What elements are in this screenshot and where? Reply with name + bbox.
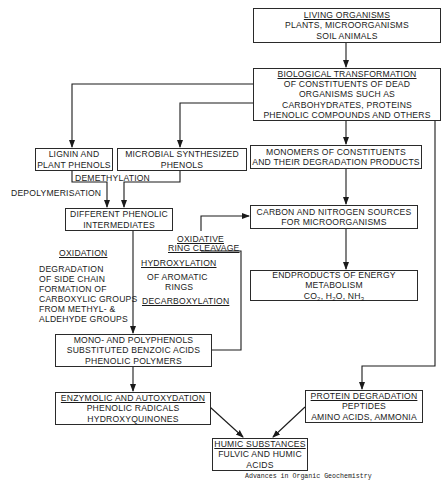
node-title: BIOLOGICAL TRANSFORMATION: [277, 69, 416, 79]
label-oxidation-line: FROM METHYL- &: [39, 304, 115, 314]
label-hydroxylation: HYDROXYLATION: [141, 258, 217, 268]
node-title: PROTEIN DEGRADATION: [311, 391, 418, 401]
node-line: MONO- AND POLYPHENOLS: [74, 335, 194, 345]
label-hydroxylation-line: OF AROMATIC: [147, 272, 208, 282]
node-line: LIGNIN AND: [49, 149, 100, 159]
chemical-formula: CO2, H2O, NH3: [304, 291, 364, 301]
node-line: CARBON AND NITROGEN SOURCES: [257, 207, 412, 217]
node-line: ACIDS: [246, 460, 273, 470]
node-line: ENDPRODUCTS OF ENERGY: [272, 270, 396, 280]
node-line: FOR MICROORGANISMS: [281, 217, 386, 227]
node-enzymolic-autoxydation: ENZYMOLIC AND AUTOXYDATION PHENOLIC RADI…: [55, 392, 211, 425]
node-lignin-plant-phenols: LIGNIN AND PLANT PHENOLS: [35, 148, 113, 171]
label-depolymerisation: DEPOLYMERISATION: [11, 188, 101, 198]
label-oxidation: OXIDATION: [59, 248, 107, 258]
label-oxidation-line: FORMATION OF: [39, 284, 107, 294]
label-oxidation-line: DEGRADATION: [39, 264, 104, 274]
node-protein-degradation: PROTEIN DEGRADATION PEPTIDES AMINO ACIDS…: [305, 390, 423, 423]
node-title: ENZYMOLIC AND AUTOXYDATION: [61, 393, 205, 403]
label-hydroxylation-line: RINGS: [165, 282, 193, 292]
node-line: MICROBIAL SYNTHESIZED: [125, 149, 239, 159]
node-line: OF CONSTITUENTS OF DEAD: [284, 79, 410, 89]
node-phenolic-intermediates: DIFFERENT PHENOLIC INTERMEDIATES: [65, 208, 173, 231]
node-biological-transformation: BIOLOGICAL TRANSFORMATION OF CONSTITUENT…: [253, 68, 441, 121]
node-title: LIVING ORGANISMS: [304, 10, 390, 20]
label-oxidation-line: CARBOXYLIC GROUPS: [39, 294, 137, 304]
node-line: PLANT PHENOLS: [37, 160, 111, 170]
node-line: PHENOLIC RADICALS: [87, 403, 180, 413]
node-line: PEPTIDES: [342, 401, 386, 411]
node-line: CARBOHYDRATES, PROTEINS: [282, 100, 412, 110]
label-decarboxylation: DECARBOXYLATION: [142, 296, 229, 306]
node-line: PLANTS, MICROORGANISMS: [285, 20, 409, 30]
source-credit: Advances in Organic Geochemistry: [245, 473, 372, 480]
node-line: FULVIC AND HUMIC: [218, 449, 302, 459]
node-line: MONOMERS OF CONSTITUENTS: [266, 147, 406, 157]
node-line: SOIL ANIMALS: [316, 31, 377, 41]
node-line: PHENOLIC POLYMERS: [85, 356, 182, 366]
node-line: PHENOLIC COMPOUNDS AND OTHERS: [263, 110, 430, 120]
node-line: ORGANISMS SUCH AS: [299, 89, 395, 99]
node-microbial-phenols: MICROBIAL SYNTHESIZED PHENOLS: [117, 148, 247, 171]
node-line: SUBSTITUTED BENZOIC ACIDS: [67, 345, 200, 355]
node-line: DIFFERENT PHENOLIC: [70, 209, 168, 219]
node-line: AMINO ACIDS, AMMONIA: [311, 412, 417, 422]
node-humic-substances: HUMIC SUBSTANCES FULVIC AND HUMIC ACIDS: [212, 438, 308, 471]
label-ring-cleavage: RING CLEAVAGE: [168, 243, 240, 253]
label-oxidation-line: OF SIDE CHAIN: [39, 274, 105, 284]
node-line: AND THEIR DEGRADATION PRODUCTS: [252, 157, 420, 167]
node-line: METABOLISM: [305, 280, 363, 290]
node-carbon-nitrogen-sources: CARBON AND NITROGEN SOURCES FOR MICROORG…: [250, 205, 418, 229]
node-polyphenols: MONO- AND POLYPHENOLS SUBSTITUTED BENZOI…: [55, 334, 212, 367]
node-title: HUMIC SUBSTANCES: [214, 439, 305, 449]
node-line: PHENOLS: [161, 160, 203, 170]
node-line: HYDROXYQUINONES: [87, 414, 178, 424]
label-demethylation: DEMETHYLATION: [75, 173, 150, 183]
label-oxidation-line: ALDEHYDE GROUPS: [39, 314, 128, 324]
node-living-organisms: LIVING ORGANISMS PLANTS, MICROORGANISMS …: [253, 8, 441, 43]
node-line: INTERMEDIATES: [83, 220, 155, 230]
node-monomers: MONOMERS OF CONSTITUENTS AND THEIR DEGRA…: [250, 145, 422, 169]
node-endproducts: ENDPRODUCTS OF ENERGY METABOLISM CO2, H2…: [250, 270, 418, 301]
